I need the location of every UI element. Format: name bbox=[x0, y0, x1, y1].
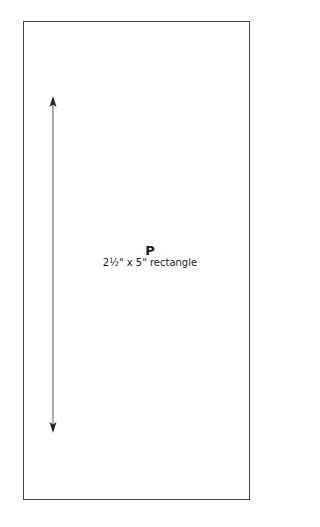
piece-letter: P bbox=[100, 244, 200, 257]
piece-dimensions: 2½" x 5" rectangle bbox=[80, 257, 220, 269]
pattern-piece-label: P 2½" x 5" rectangle bbox=[100, 244, 200, 269]
